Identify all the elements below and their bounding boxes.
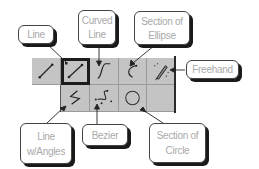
straight-line-icon <box>64 61 87 82</box>
callout-freehand-text: Freehand <box>192 64 232 75</box>
callout-section-of-ellipse: Section of Ellipse <box>134 11 190 45</box>
curved-line-icon <box>90 58 118 84</box>
tool-bezier[interactable] <box>90 85 119 112</box>
callout-section-of-circle-text-2: Circle <box>166 145 190 156</box>
callout-curved-line-text-1: Curved <box>82 15 112 26</box>
tool-section-of-circle[interactable] <box>119 85 147 112</box>
callout-section-of-ellipse-text-1: Section of <box>141 16 182 27</box>
tool-line-with-angles[interactable] <box>61 85 90 112</box>
callout-freehand: Freehand <box>186 60 239 79</box>
bezier-icon <box>90 85 118 111</box>
polyline-icon <box>61 85 89 111</box>
tool-line-selected[interactable] <box>61 58 90 85</box>
tool-palette-diagram: Line Curved Line Section of Ellipse Free… <box>0 0 259 169</box>
tool-line[interactable] <box>32 58 61 85</box>
palette-right-edge <box>174 56 176 113</box>
callout-section-of-ellipse-text-2: Ellipse <box>148 30 175 41</box>
ellipse-arc-icon <box>119 58 146 84</box>
callout-bezier: Bezier <box>82 124 128 146</box>
callout-section-of-circle: Section of Circle <box>149 123 206 163</box>
tool-curved-line[interactable] <box>90 58 119 85</box>
callout-bezier-text: Bezier <box>92 130 119 141</box>
pencil-icon <box>147 58 174 84</box>
tool-freehand[interactable] <box>147 58 175 85</box>
tool-empty <box>147 85 175 112</box>
circle-icon <box>119 85 146 111</box>
callout-line: Line <box>18 25 54 44</box>
callout-curved-line: Curved Line <box>78 10 116 45</box>
callout-line-text: Line <box>27 29 45 40</box>
straight-line-icon <box>32 58 60 84</box>
palette-left-edge <box>60 85 61 112</box>
callout-line-with-angles-text-2: w/Angles <box>27 146 65 157</box>
callout-line-with-angles-text-1: Line <box>37 131 55 142</box>
tool-section-of-ellipse[interactable] <box>119 58 147 85</box>
callout-line-with-angles: Line w/Angles <box>20 123 72 164</box>
callout-section-of-circle-text-1: Section of <box>157 130 198 141</box>
callout-curved-line-text-2: Line <box>88 29 106 40</box>
